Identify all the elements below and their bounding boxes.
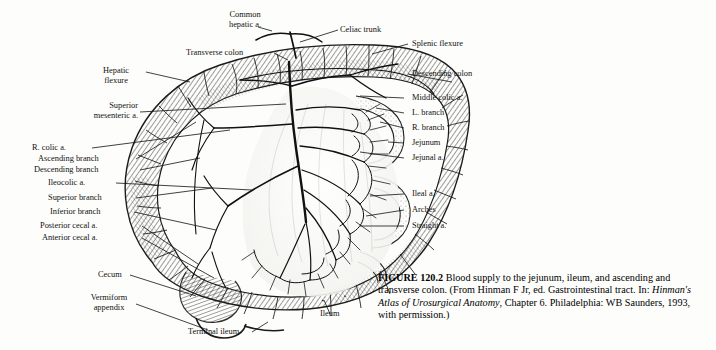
label-descending-branch: Descending branch (34, 165, 98, 175)
label-descending-colon: Descending colon (412, 69, 472, 79)
figure-caption: FIGURE 120.2 Blood supply to the jejunum… (378, 272, 708, 322)
posterior-cecal-artery (192, 248, 210, 278)
label-arches: Arches (412, 205, 436, 215)
label-ileal-artery: Ileal a. (412, 189, 435, 199)
label-superior-branch: Superior branch (48, 193, 102, 203)
ileocolic-superior-branch (204, 176, 228, 206)
marginal-artery-left (194, 120, 204, 234)
common-hepatic-artery-vessel (256, 33, 290, 40)
label-jejunum: Jejunum (412, 138, 440, 148)
label-inferior-branch: Inferior branch (50, 207, 100, 217)
label-transverse-colon: Transverse colon (186, 48, 243, 58)
label-right-branch: R. branch (412, 123, 445, 133)
label-terminal-ileum: Terminal ileum (188, 327, 239, 337)
label-celiac-trunk: Celiac trunk (340, 25, 381, 35)
label-right-colic-artery: R. colic a. (32, 143, 66, 153)
label-common-hepatic-artery: Common hepatic a. (214, 10, 276, 29)
label-left-branch: L. branch (412, 108, 444, 118)
label-ileocolic-artery: Ileocolic a. (48, 178, 85, 188)
label-cecum: Cecum (98, 270, 122, 280)
label-middle-colic-artery: Middle colic a. (412, 93, 462, 103)
label-splenic-flexure: Splenic flexure (412, 39, 463, 49)
label-vermiform-appendix: Vermiform appendix (78, 293, 140, 312)
mesentery (243, 86, 400, 296)
label-ileum: Ileum (320, 309, 340, 319)
middle-colic-right-branch (350, 75, 386, 98)
figure-container: Common hepatic a. Celiac trunk Splenic f… (0, 0, 716, 350)
label-jejunal-artery: Jejunal a. (412, 153, 444, 163)
figure-number: FIGURE 120.2 (378, 272, 443, 283)
label-ascending-branch: Ascending branch (38, 154, 99, 164)
label-posterior-cecal-artery: Posterior cecal a. (40, 221, 97, 231)
label-straight-artery: Straight a. (412, 221, 446, 231)
label-anterior-cecal-artery: Anterior cecal a. (42, 233, 98, 243)
label-superior-mesenteric-artery: Superior mesenteric a. (58, 101, 138, 120)
label-hepatic-flexure: Hepatic flexure (88, 66, 144, 85)
ileocolic-inferior-branch (210, 206, 228, 248)
